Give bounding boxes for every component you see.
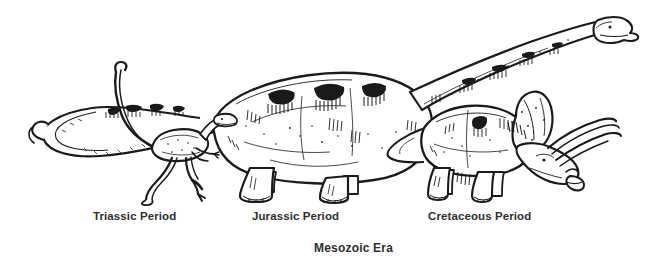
- dinosaur-illustration: [0, 0, 647, 210]
- label-jurassic-period: Jurassic Period: [252, 210, 339, 222]
- label-triassic-period: Triassic Period: [93, 210, 176, 222]
- label-cretaceous-period: Cretaceous Period: [428, 210, 531, 222]
- mesozoic-era-figure: Triassic Period Jurassic Period Cretaceo…: [0, 0, 647, 273]
- label-mesozoic-era: Mesozoic Era: [0, 241, 647, 255]
